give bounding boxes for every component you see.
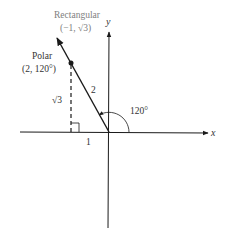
right-angle-marker bbox=[71, 123, 79, 132]
y-axis-label: y bbox=[105, 16, 111, 27]
polar-title: Polar bbox=[32, 51, 53, 61]
horizontal-leg-label: 1 bbox=[86, 137, 91, 147]
point-marker bbox=[69, 61, 74, 66]
rectangular-title: Rectangular bbox=[54, 10, 101, 20]
angle-label: 120° bbox=[130, 106, 148, 116]
polar-coords: (2, 120°) bbox=[22, 64, 56, 75]
radius-label: 2 bbox=[91, 85, 96, 95]
rectangular-coords: (−1, √3) bbox=[60, 23, 91, 34]
vertical-leg-label: √3 bbox=[52, 95, 62, 105]
polar-rectangular-diagram: x y Rectangular (−1, √3) Polar (2, 120°)… bbox=[0, 0, 230, 244]
x-axis bbox=[20, 132, 208, 133]
x-axis-label: x bbox=[210, 127, 216, 138]
radius-ray bbox=[57, 38, 109, 132]
